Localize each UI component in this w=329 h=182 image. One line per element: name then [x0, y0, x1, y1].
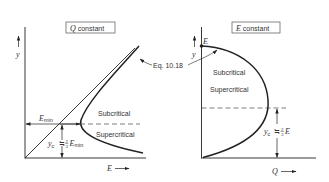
svg-text:Q: Q: [272, 167, 278, 176]
right-supercritical-label: Supercritical: [210, 86, 249, 94]
left-title-text: constant: [76, 25, 104, 32]
left-x-axis-label: E: [106, 164, 129, 173]
right-subcritical-label: Subcritical: [213, 69, 246, 76]
svg-text:3: 3: [281, 132, 284, 137]
left-title-box: Q constant: [66, 22, 115, 33]
left-supercritical-label: Supercritical: [96, 131, 135, 139]
left-y-label-text: y: [15, 50, 20, 59]
right-y-axis-label: y: [191, 36, 196, 59]
svg-text:E: E: [284, 127, 290, 136]
left-yc-formula: yc ≒ 2 3 Emin: [47, 139, 83, 149]
right-title-box: E constant: [232, 22, 280, 33]
equation-reference: Eq. 10.18: [140, 50, 217, 70]
svg-text:3: 3: [66, 144, 69, 149]
left-emin-label: Emin: [38, 114, 53, 123]
specific-energy-diagram: Q constant y Emin yc ≒ 2 3: [0, 0, 329, 182]
svg-text:E constant: E constant: [235, 24, 269, 33]
svg-text:≒: ≒: [274, 128, 280, 135]
right-panel-e-constant: E constant y E yc ≒ 2 3 E Sub: [191, 22, 316, 176]
svg-text:Q constant: Q constant: [70, 24, 104, 33]
left-panel-q-constant: Q constant y Emin yc ≒ 2 3: [15, 22, 146, 173]
right-discharge-curve: [202, 46, 269, 158]
svg-text:E: E: [106, 164, 112, 173]
svg-text:yc: yc: [47, 139, 55, 149]
left-subcritical-label: Subcritical: [98, 110, 131, 117]
right-title-text: constant: [241, 25, 269, 32]
svg-text:Emin: Emin: [69, 139, 84, 148]
right-point-e-label: E: [202, 37, 208, 46]
right-x-axis-label: Q: [272, 167, 296, 176]
svg-text:≒: ≒: [59, 140, 65, 147]
equation-ref-label: Eq. 10.18: [153, 62, 183, 70]
svg-text:yc: yc: [263, 127, 271, 137]
right-yc-formula: yc ≒ 2 3 E: [263, 127, 290, 137]
left-y-axis-label: y: [15, 36, 20, 59]
right-y-label-text: y: [191, 50, 196, 59]
eq-leader-left: [140, 59, 152, 65]
